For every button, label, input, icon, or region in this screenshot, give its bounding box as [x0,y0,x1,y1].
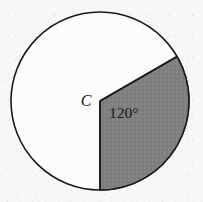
center-point-label: C [81,92,92,109]
circle-sector-figure: C 120° [0,0,203,202]
angle-measure-label: 120° [109,104,138,121]
figure-canvas: C 120° [0,0,203,202]
